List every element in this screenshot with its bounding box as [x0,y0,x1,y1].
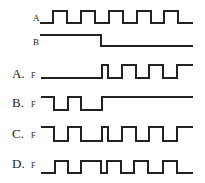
signal-label-a: A [33,14,40,23]
waveform-input-a [40,11,193,23]
option-label-b: B. [12,96,24,109]
output-label-f-c: F [31,132,35,140]
waveform-option-a [41,65,193,78]
signal-label-b: B [33,38,39,47]
waveform-option-c [41,127,193,141]
waveform-option-d [41,161,193,173]
option-label-a: A. [12,67,25,80]
output-label-f-a: F [31,72,35,80]
option-label-c: C. [12,127,24,140]
option-label-d: D. [12,157,25,170]
output-label-f-d: F [31,162,35,170]
waveform-input-b [40,35,193,46]
waveform-option-b [41,97,193,110]
timing-diagram [0,0,205,183]
output-label-f-b: F [31,101,35,109]
